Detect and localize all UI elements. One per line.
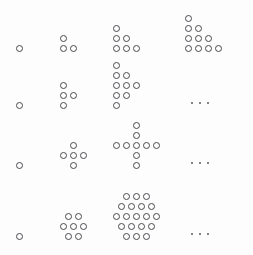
- ellipsis-square-numbers-diagonal: [191, 102, 209, 104]
- ellipsis-dot: [199, 162, 201, 164]
- ellipsis-dot: [199, 233, 201, 235]
- dot: [16, 233, 23, 240]
- ellipsis-dot: [207, 162, 209, 164]
- dot: [215, 45, 222, 52]
- ellipsis-dot: [207, 233, 209, 235]
- dot: [133, 82, 140, 89]
- dot: [113, 92, 120, 99]
- dot: [80, 152, 87, 159]
- dot: [70, 45, 77, 52]
- dot: [133, 122, 140, 129]
- dot: [123, 193, 130, 200]
- dot: [133, 142, 140, 149]
- dot: [205, 45, 212, 52]
- dot: [70, 152, 77, 159]
- dot: [143, 233, 150, 240]
- dot-figure-centered-hexagonal-numbers-term-1: [16, 233, 26, 243]
- dot: [153, 142, 160, 149]
- dot: [113, 72, 120, 79]
- dot: [143, 142, 150, 149]
- dot-figure-square-numbers-diagonal-term-1: [16, 102, 26, 112]
- dot: [123, 72, 130, 79]
- dot: [65, 233, 72, 240]
- dot: [123, 82, 130, 89]
- dot: [123, 35, 130, 42]
- dot: [195, 25, 202, 32]
- dot-figure-triangular-numbers-term-4: [185, 15, 225, 55]
- dot: [60, 45, 67, 52]
- dot: [138, 223, 145, 230]
- ellipsis-dot: [207, 102, 209, 104]
- ellipsis-dot: [199, 102, 201, 104]
- dot: [123, 142, 130, 149]
- dot: [113, 25, 120, 32]
- ellipsis-centered-hexagonal-numbers: [191, 233, 209, 235]
- dot-figure-centered-hexagonal-numbers-term-2: [60, 213, 90, 243]
- dot-figure-square-numbers-diagonal-term-3: [113, 62, 143, 112]
- dot: [113, 62, 120, 69]
- dot: [113, 35, 120, 42]
- dot: [123, 92, 130, 99]
- dot: [148, 223, 155, 230]
- dot: [138, 203, 145, 210]
- dot: [16, 102, 23, 109]
- dot: [60, 35, 67, 42]
- dot-figure-cross-numbers-term-2: [60, 142, 90, 172]
- dot: [75, 233, 82, 240]
- dot-figure-triangular-numbers-term-2: [60, 35, 80, 55]
- dot-figure-square-numbers-diagonal-term-2: [60, 82, 80, 112]
- dot: [118, 223, 125, 230]
- dot: [185, 15, 192, 22]
- dot: [113, 102, 120, 109]
- dot: [60, 102, 67, 109]
- dot: [123, 233, 130, 240]
- ellipsis-cross-numbers: [191, 162, 209, 164]
- dot: [70, 223, 77, 230]
- dot: [205, 35, 212, 42]
- dot: [133, 233, 140, 240]
- ellipsis-dot: [191, 233, 193, 235]
- dot-figure-cross-numbers-term-3: [113, 122, 163, 172]
- dot: [133, 45, 140, 52]
- dot: [60, 92, 67, 99]
- dot-figure-triangular-numbers-term-1: [16, 45, 26, 55]
- dot: [80, 223, 87, 230]
- dot: [113, 82, 120, 89]
- dot: [60, 223, 67, 230]
- dot: [185, 25, 192, 32]
- dot: [133, 162, 140, 169]
- figurate-number-diagram: [0, 0, 253, 255]
- ellipsis-dot: [191, 162, 193, 164]
- dot: [113, 213, 120, 220]
- dot: [148, 203, 155, 210]
- dot: [16, 45, 23, 52]
- dot: [133, 132, 140, 139]
- dot: [123, 213, 130, 220]
- dot: [123, 45, 130, 52]
- dot: [153, 213, 160, 220]
- dot: [16, 162, 23, 169]
- dot: [65, 213, 72, 220]
- dot: [133, 152, 140, 159]
- dot-figure-cross-numbers-term-1: [16, 162, 26, 172]
- dot: [113, 142, 120, 149]
- dot: [185, 45, 192, 52]
- ellipsis-dot: [191, 102, 193, 104]
- dot: [195, 45, 202, 52]
- dot: [185, 35, 192, 42]
- dot: [60, 82, 67, 89]
- dot: [195, 35, 202, 42]
- dot: [113, 45, 120, 52]
- dot: [128, 203, 135, 210]
- dot: [143, 193, 150, 200]
- dot: [70, 142, 77, 149]
- dot: [133, 213, 140, 220]
- dot: [143, 213, 150, 220]
- dot: [133, 193, 140, 200]
- dot: [70, 92, 77, 99]
- dot: [70, 162, 77, 169]
- dot-figure-centered-hexagonal-numbers-term-3: [113, 193, 163, 243]
- dot: [118, 203, 125, 210]
- dot: [75, 213, 82, 220]
- dot: [128, 223, 135, 230]
